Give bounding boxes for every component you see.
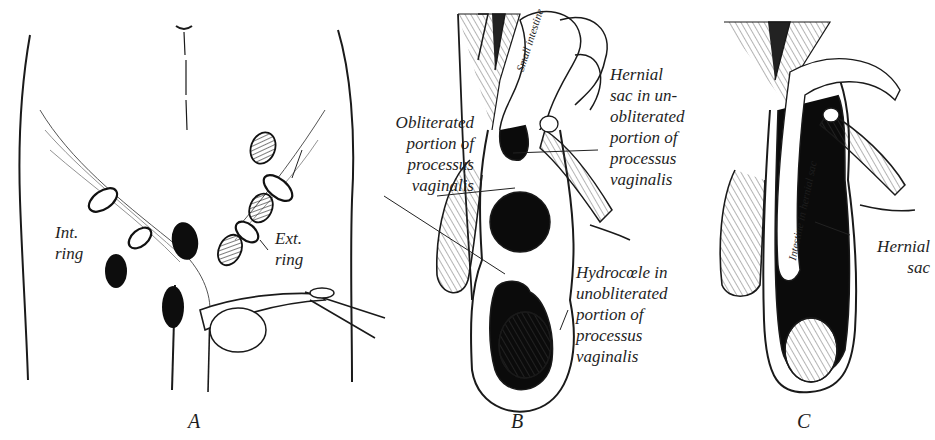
obliterated-portion-label: Obliterated portion of processus vaginal… (358, 112, 474, 196)
hernial-sac-label: Hernial sac (848, 236, 930, 278)
panel-letter-a: A (188, 410, 200, 433)
internal-ring-label: Int. ring (55, 222, 83, 264)
panel-a-hatched-ovals (213, 129, 279, 269)
panel-letter-c: C (797, 410, 810, 433)
hydrocele-label: Hydrocœle in unobliterated portion of pr… (576, 262, 668, 367)
internal-ring-lower (125, 224, 155, 253)
external-ring-label: Ext. ring (275, 228, 303, 270)
panel-letter-b: B (511, 410, 523, 433)
internal-ring-upper (85, 183, 122, 216)
panel-a-drawing (19, 26, 385, 392)
panel-c-drawing (720, 22, 915, 392)
hernial-sac-unobliterated-label: Hernial sac in un- obliterated portion o… (610, 64, 685, 190)
